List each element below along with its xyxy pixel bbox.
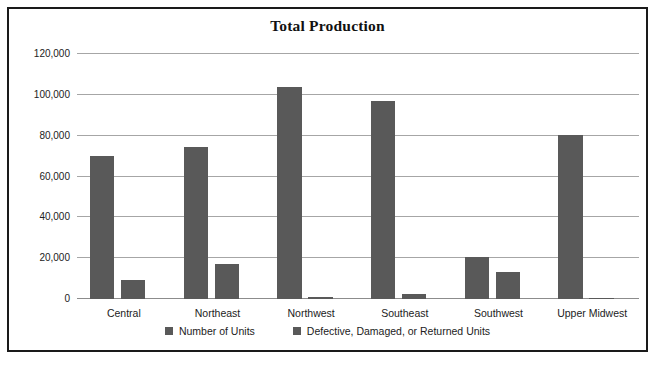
y-axis-tick-label: 100,000 (34, 90, 70, 100)
bar[interactable] (558, 135, 582, 299)
bar[interactable] (371, 101, 395, 299)
y-axis-tick-label: 20,000 (39, 253, 70, 263)
bar[interactable] (184, 147, 208, 299)
bar[interactable] (215, 264, 239, 299)
bar-group: Upper Midwest (545, 54, 639, 299)
plot-area: 020,00040,00060,00080,000100,000120,000 … (77, 54, 639, 299)
chart-frame: Total Production 020,00040,00060,00080,0… (7, 7, 648, 352)
bar[interactable] (121, 280, 145, 299)
bar[interactable] (90, 156, 114, 299)
x-axis-tick-label: Northwest (264, 307, 358, 319)
x-axis-tick-label: Southeast (358, 307, 452, 319)
legend-item[interactable]: Defective, Damaged, or Returned Units (293, 325, 490, 337)
y-axis-tick-label: 0 (64, 294, 70, 304)
bar-group: Northwest (264, 54, 358, 299)
bar[interactable] (308, 297, 332, 299)
x-axis-tick-label: Central (77, 307, 171, 319)
bar-group: Central (77, 54, 171, 299)
bar[interactable] (402, 294, 426, 299)
x-axis-tick-label: Upper Midwest (545, 307, 639, 319)
chart-title: Total Production (9, 17, 646, 35)
y-axis-tick-label: 80,000 (39, 131, 70, 141)
legend-label: Number of Units (179, 325, 255, 337)
bar[interactable] (496, 272, 520, 299)
legend-swatch-icon (165, 327, 173, 335)
bar[interactable] (277, 87, 301, 299)
bar-group: Southeast (358, 54, 452, 299)
x-axis-tick-label: Southwest (452, 307, 546, 319)
bars-layer: CentralNortheastNorthwestSoutheastSouthw… (77, 54, 639, 299)
bar[interactable] (589, 298, 613, 299)
y-axis-tick-label: 120,000 (34, 49, 70, 59)
chart-legend: Number of UnitsDefective, Damaged, or Re… (9, 325, 646, 337)
legend-swatch-icon (293, 327, 301, 335)
legend-item[interactable]: Number of Units (165, 325, 255, 337)
bar[interactable] (465, 257, 489, 299)
bar-group: Southwest (452, 54, 546, 299)
legend-label: Defective, Damaged, or Returned Units (307, 325, 490, 337)
bar-group: Northeast (171, 54, 265, 299)
x-axis-tick-label: Northeast (171, 307, 265, 319)
y-axis-tick-label: 40,000 (39, 212, 70, 222)
y-axis-tick-label: 60,000 (39, 172, 70, 182)
